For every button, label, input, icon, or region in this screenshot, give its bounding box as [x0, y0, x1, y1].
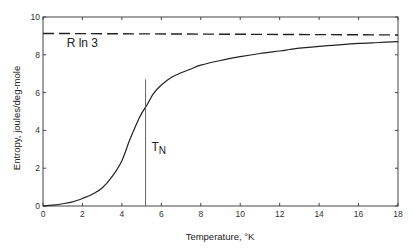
- tn-subscript: N: [159, 145, 166, 156]
- y-tick-label: 8: [35, 50, 40, 60]
- x-tick-label: 0: [41, 209, 46, 219]
- y-tick-label: 4: [35, 125, 40, 135]
- x-tick-label: 4: [120, 209, 125, 219]
- x-tick-label: 2: [80, 209, 85, 219]
- x-tick-label: 12: [275, 209, 285, 219]
- y-tick-label: 2: [35, 163, 40, 173]
- x-tick-label: 18: [393, 209, 403, 219]
- r-ln-3-annotation: R ln 3: [67, 36, 99, 50]
- y-tick-label: 6: [35, 88, 40, 98]
- r-ln-3-dashed-line: [43, 33, 398, 35]
- entropy-chart: 024681012141618 0246810 Temperature, °K …: [0, 0, 415, 251]
- series: [43, 33, 398, 206]
- y-axis-title: Entropy, joules/deg-mole: [11, 66, 22, 170]
- x-tick-label: 14: [314, 209, 324, 219]
- y-tick-label: 10: [31, 12, 41, 22]
- neel-temperature-annotation: TN: [151, 140, 166, 156]
- x-tick-label: 16: [354, 209, 364, 219]
- entropy-curve: [43, 42, 398, 206]
- x-tick-label: 6: [159, 209, 164, 219]
- x-tick-label: 8: [198, 209, 203, 219]
- x-axis-title: Temperature, °K: [186, 231, 255, 242]
- y-tick-label: 0: [35, 201, 40, 211]
- x-tick-label: 10: [235, 209, 245, 219]
